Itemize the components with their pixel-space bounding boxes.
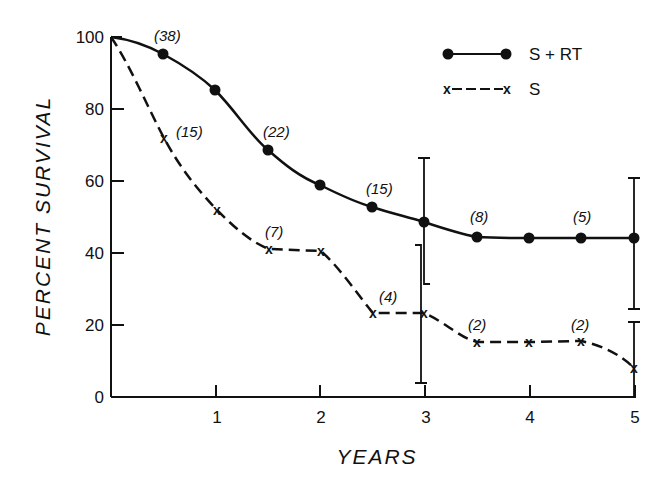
y-tick-label: 40: [85, 244, 104, 263]
series-s-rt: [111, 37, 640, 309]
svg-text:x: x: [577, 333, 585, 349]
y-tick-label: 100: [76, 28, 104, 47]
annotation: (15): [366, 180, 393, 197]
x-axis-title: YEARS: [336, 445, 417, 468]
y-tick-labels: 0 20 40 60 80 100: [76, 28, 104, 407]
annotations-s-rt: (38) (22) (15) (8) (5): [154, 27, 591, 225]
x-tick-label: 5: [630, 408, 639, 427]
y-ticks: [111, 109, 124, 325]
svg-text:x: x: [265, 241, 273, 257]
annotation: (4): [379, 288, 397, 305]
svg-text:x: x: [317, 243, 325, 259]
legend-item-s: x x S: [443, 80, 540, 99]
x-tick-labels: 1 2 3 4 5: [212, 408, 639, 427]
legend-item-s-rt: S + RT: [443, 45, 583, 64]
svg-text:x: x: [473, 334, 481, 350]
annotation: (15): [176, 123, 203, 140]
annotation: (5): [573, 208, 591, 225]
x-tick-label: 1: [212, 408, 221, 427]
series-s-markers: x x x x x x x x x x: [160, 130, 638, 376]
legend: S + RT x x S: [443, 45, 583, 99]
y-tick-label: 80: [85, 100, 104, 119]
annotation: (8): [470, 208, 488, 225]
axes: [111, 37, 636, 397]
y-tick-label: 20: [85, 316, 104, 335]
y-tick-label: 60: [85, 172, 104, 191]
filled-circle-icon: [501, 49, 512, 60]
x-marker-icon: x: [503, 81, 511, 97]
annotation: (38): [154, 27, 181, 44]
svg-text:x: x: [525, 334, 533, 350]
x-marker-icon: x: [443, 81, 451, 97]
legend-label: S + RT: [529, 45, 582, 64]
x-ticks: [216, 385, 635, 397]
svg-text:x: x: [160, 130, 168, 146]
y-axis-title: PERCENT SURVIVAL: [31, 96, 54, 337]
annotation: (22): [263, 123, 290, 140]
y-tick-label: 0: [95, 388, 104, 407]
svg-text:x: x: [213, 202, 221, 218]
annotation: (2): [468, 316, 486, 333]
annotation: (7): [265, 223, 283, 240]
x-tick-label: 3: [421, 408, 430, 427]
svg-text:x: x: [369, 305, 377, 321]
annotation: (2): [571, 316, 589, 333]
filled-circle-icon: [443, 49, 454, 60]
survival-chart: 0 20 40 60 80 100 1 2 3 4 5 YEARS PERCEN…: [0, 0, 669, 484]
x-tick-label: 4: [525, 408, 534, 427]
x-tick-label: 2: [316, 408, 325, 427]
legend-label: S: [529, 80, 540, 99]
series-s: x x x x x x x x x x: [111, 37, 640, 397]
series-s-error-bars: [415, 245, 640, 397]
